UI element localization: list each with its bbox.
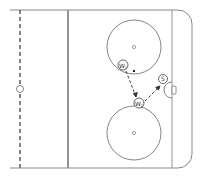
- hockey-rink-diagram: W1 W2 S: [0, 0, 200, 179]
- bottom-faceoff-dot: [132, 131, 135, 134]
- goal-net: [172, 86, 176, 94]
- center-faceoff-spot: [17, 86, 24, 93]
- movement-arrows: [126, 71, 160, 101]
- puck: [133, 70, 135, 72]
- player-w1: W1: [118, 60, 128, 70]
- top-faceoff-dot: [132, 45, 135, 48]
- goal-crease: [164, 82, 172, 98]
- player-s: S: [159, 75, 168, 84]
- player-s-label: S: [161, 75, 165, 82]
- player-w2: W2: [134, 98, 144, 108]
- rink-boards: [10, 10, 192, 168]
